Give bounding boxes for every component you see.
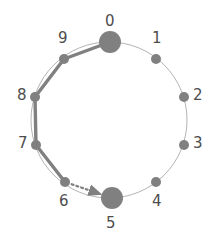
node-label-1: 1 (152, 31, 162, 46)
node-4[interactable] (151, 177, 161, 187)
path-edge-7-6 (36, 145, 65, 182)
node-label-8: 8 (17, 88, 27, 103)
node-5[interactable] (101, 187, 123, 209)
node-9[interactable] (59, 54, 69, 64)
node-0[interactable] (99, 31, 121, 53)
node-label-7: 7 (18, 136, 28, 151)
node-label-2: 2 (193, 88, 203, 103)
node-label-4: 4 (152, 194, 162, 209)
node-1[interactable] (151, 54, 161, 64)
cycle-graph-svg (0, 0, 217, 245)
node-3[interactable] (179, 140, 189, 150)
path-edge-9-8 (35, 59, 64, 97)
node-8[interactable] (30, 92, 40, 102)
node-label-9: 9 (58, 31, 68, 46)
path-edge-8-7 (35, 97, 36, 145)
node-dots (30, 31, 189, 209)
node-label-5: 5 (106, 216, 116, 231)
node-6[interactable] (60, 177, 70, 187)
node-label-6: 6 (59, 194, 69, 209)
node-7[interactable] (31, 140, 41, 150)
node-label-3: 3 (193, 136, 203, 151)
dashed-transition-arrow (72, 184, 98, 193)
dashed-edge-6-5 (72, 184, 98, 193)
cycle-outline-circle (31, 42, 187, 198)
highlighted-path (35, 42, 110, 182)
node-label-0: 0 (105, 14, 115, 29)
node-2[interactable] (179, 92, 189, 102)
diagram-canvas: 0123456789 (0, 0, 217, 245)
